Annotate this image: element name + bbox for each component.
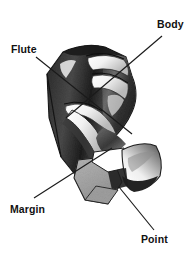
point-facet-right: [122, 144, 161, 192]
label-body: Body: [157, 19, 184, 30]
label-margin: Margin: [10, 204, 45, 215]
label-point: Point: [141, 234, 168, 245]
leader-line-point: [119, 187, 154, 230]
drill-bit-diagram: Flute Body Margin Point: [0, 0, 196, 262]
label-flute: Flute: [11, 44, 37, 55]
drill-bit-illustration: [0, 0, 196, 262]
